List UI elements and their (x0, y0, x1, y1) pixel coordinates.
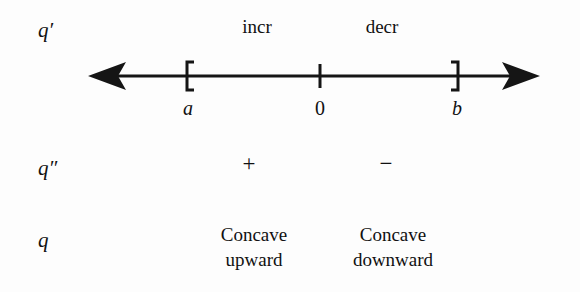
concavity-downward-line1: Concave (353, 222, 433, 247)
number-line (0, 56, 580, 100)
concavity-upward-line2: upward (221, 247, 287, 272)
row-label-q-double-prime-marks: ″ (49, 156, 58, 180)
concavity-downward-block: Concave downward (353, 222, 433, 272)
sign-negative: − (380, 152, 393, 175)
row-label-q-double-prime: q″ (38, 158, 58, 179)
row-label-q-prime-letter: q (38, 18, 49, 42)
monotonicity-increasing-label: incr (242, 17, 272, 36)
tick-label-zero: 0 (315, 98, 325, 118)
number-line-axis-svg (0, 56, 580, 100)
concavity-downward-line2: downward (353, 247, 433, 272)
row-label-q-prime-marks: ′ (49, 18, 54, 42)
tick-label-a: a (183, 98, 193, 118)
concavity-upward-line1: Concave (221, 222, 287, 247)
row-label-q-prime: q′ (38, 20, 54, 41)
row-label-q: q (38, 230, 49, 251)
concavity-upward-block: Concave upward (221, 222, 287, 272)
row-label-q-double-prime-letter: q (38, 156, 49, 180)
tick-label-b: b (452, 98, 462, 118)
sign-chart-figure: q′ incr decr a 0 b q″ + − q Concave upwa… (0, 0, 580, 292)
sign-positive: + (243, 152, 256, 175)
monotonicity-decreasing-label: decr (366, 17, 399, 36)
